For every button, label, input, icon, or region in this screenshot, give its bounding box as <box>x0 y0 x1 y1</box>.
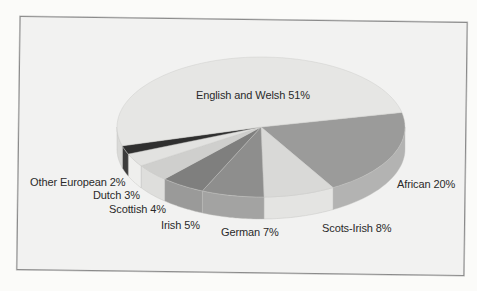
label-irish: Irish 5% <box>161 219 200 231</box>
pie-top <box>117 57 405 197</box>
label-scottish: Scottish 4% <box>109 203 166 215</box>
label-english-welsh: English and Welsh 51% <box>196 89 310 101</box>
label-german: German 7% <box>221 226 279 238</box>
label-scots-irish: Scots-Irish 8% <box>322 222 392 234</box>
pie-chart <box>0 0 477 291</box>
label-african: African 20% <box>397 178 455 190</box>
label-other-european: Other European 2% <box>30 176 126 188</box>
chart-stage: English and Welsh 51% African 20% Scots-… <box>0 0 477 291</box>
label-dutch: Dutch 3% <box>93 189 140 201</box>
